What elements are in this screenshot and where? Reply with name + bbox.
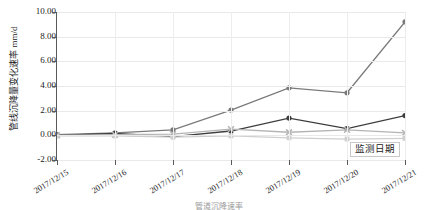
y-axis-tick-label: 6.00 — [10, 56, 56, 65]
gridline-vertical — [173, 12, 174, 160]
gridline-vertical — [347, 12, 348, 160]
y-axis-tick — [52, 61, 57, 62]
y-axis-tick-label: 4.00 — [10, 81, 56, 90]
x-axis-tick-label: 2017/12/16 — [75, 167, 128, 204]
x-axis-tick-label: 2017/12/18 — [191, 167, 244, 204]
gridline-vertical — [115, 12, 116, 160]
y-axis-tick — [52, 12, 57, 13]
y-axis-tick-label: 8.00 — [10, 32, 56, 41]
x-axis-tick — [347, 160, 348, 165]
y-axis-tick-label: -2.00 — [10, 155, 56, 164]
gridline-vertical — [231, 12, 232, 160]
x-axis-tick — [115, 160, 116, 165]
y-axis-tick-label: 10.00 — [10, 7, 56, 16]
y-axis-tick-label: 0.00 — [10, 130, 56, 139]
plot-area — [57, 12, 405, 160]
y-axis-tick-label: 2.00 — [10, 106, 56, 115]
x-axis-tick-label: 2017/12/21 — [365, 167, 418, 204]
x-axis-tick — [231, 160, 232, 165]
gridline-vertical — [405, 12, 406, 160]
x-axis-title: 监测日期 — [350, 142, 400, 157]
chart-container: 管线沉降量变化速率 mm/d 10.008.006.004.002.000.00… — [0, 0, 438, 210]
x-axis-tick-label: 2017/12/19 — [249, 167, 302, 204]
x-axis-tick-label: 2017/12/20 — [307, 167, 360, 204]
x-axis-tick-label: 2017/12/17 — [133, 167, 186, 204]
y-axis-tick — [52, 135, 57, 136]
x-axis-tick — [289, 160, 290, 165]
y-axis-tick — [52, 111, 57, 112]
x-axis-tick — [57, 160, 58, 165]
x-axis-tick — [173, 160, 174, 165]
gridline-vertical — [289, 12, 290, 160]
y-axis-tick — [52, 86, 57, 87]
y-axis-tick — [52, 37, 57, 38]
x-axis-tick — [405, 160, 406, 165]
figure-caption: 管道沉降速率 — [0, 200, 438, 210]
